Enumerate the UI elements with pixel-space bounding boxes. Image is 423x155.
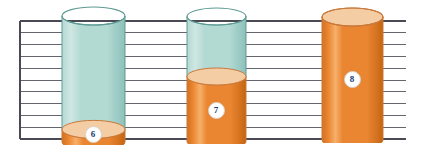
cylinder-8: 8	[319, 5, 386, 143]
cylinder-illustration: 6 7 8	[0, 0, 423, 155]
cylinder-6-graphic	[59, 4, 128, 145]
cylinder-6-badge: 6	[85, 126, 102, 143]
cylinder-6: 6	[59, 4, 128, 145]
cylinder-7-badge: 7	[208, 102, 225, 119]
cylinder-7-graphic	[184, 5, 249, 145]
cylinder-8-badge: 8	[344, 71, 361, 88]
cylinder-7: 7	[184, 5, 249, 145]
cylinder-6-badge-label: 6	[91, 130, 96, 139]
cylinder-8-badge-label: 8	[350, 75, 355, 84]
cylinder-7-badge-label: 7	[214, 106, 219, 115]
